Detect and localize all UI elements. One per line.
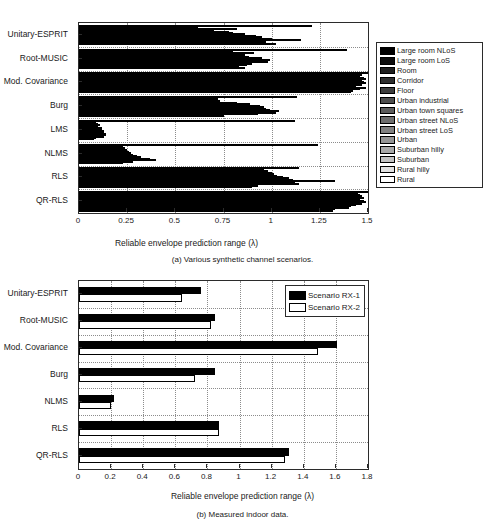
legend-a-item[interactable]: Corridor: [380, 76, 480, 86]
legend-a-label: Floor: [397, 86, 414, 95]
legend-a-label: Urban street LoS: [397, 126, 453, 135]
legend-a-item[interactable]: Urban street LoS: [380, 125, 480, 135]
legend-a-label: Suburban: [397, 155, 429, 164]
legend-a-item[interactable]: Urban: [380, 135, 480, 145]
legend-a-item[interactable]: Suburban: [380, 155, 480, 165]
gridline-horizontal: [79, 415, 368, 416]
gridline-horizontal: [79, 189, 368, 190]
bar: [79, 43, 276, 45]
x-axis-tick-label: 1.5: [361, 216, 372, 225]
x-axis-tick: [335, 464, 336, 468]
x-axis-tick-label: 1.8: [361, 472, 372, 481]
bar: [79, 186, 252, 188]
legend-a-item[interactable]: Large room LoS: [380, 56, 480, 66]
legend-swatch-icon: [380, 166, 395, 174]
x-axis-tick: [78, 208, 79, 212]
legend-a-item[interactable]: Floor: [380, 86, 480, 96]
y-axis-category-label: Root-MUSIC: [20, 53, 74, 63]
legend-swatch-icon: [380, 47, 395, 55]
bar: [79, 91, 351, 93]
x-axis-tick-label: 0.75: [215, 216, 231, 225]
bar: [79, 321, 211, 328]
legend-swatch-icon: [380, 146, 395, 154]
legend-a-item[interactable]: Urban town squares: [380, 105, 480, 115]
x-axis-tick-label: 1.2: [265, 472, 276, 481]
legend-swatch-icon: [380, 116, 395, 124]
legend-a[interactable]: Large room NLoSLarge room LoSRoomCorrido…: [376, 42, 483, 188]
legend-a-item[interactable]: Urban street NLoS: [380, 115, 480, 125]
gridline-horizontal: [79, 94, 368, 95]
legend-b-item[interactable]: Scenario RX-1: [289, 289, 361, 301]
legend-b[interactable]: Scenario RX-1Scenario RX-2: [285, 285, 365, 317]
bar: [79, 67, 245, 69]
y-axis-category-label: QR-RLS: [36, 195, 74, 205]
x-axis-tick: [174, 464, 175, 468]
legend-swatch-icon: [380, 156, 395, 164]
gridline-horizontal: [79, 71, 368, 72]
x-axis-tick-label: 0.4: [137, 472, 148, 481]
x-axis-tick-label: 1.4: [297, 472, 308, 481]
legend-b-label: Scenario RX-1: [308, 291, 360, 300]
legend-b-item[interactable]: Scenario RX-2: [289, 301, 361, 313]
legend-a-label: Large room NLoS: [397, 46, 455, 55]
bar: [79, 375, 195, 382]
legend-a-label: Large room LoS: [397, 56, 450, 65]
x-axis-tick-label: 0.8: [201, 472, 212, 481]
legend-b-label: Scenario RX-2: [308, 303, 360, 312]
bar: [79, 348, 318, 355]
legend-a-label: Urban town squares: [397, 106, 463, 115]
x-axis-tick-label: 1: [236, 472, 240, 481]
x-axis-tick-label: 0.2: [105, 472, 116, 481]
gridline-horizontal: [79, 388, 368, 389]
bar: [79, 162, 123, 164]
bar: [79, 402, 111, 409]
bar: [79, 395, 114, 402]
legend-a-label: Urban industrial: [397, 96, 449, 105]
y-axis-tick: [78, 58, 82, 59]
legend-a-item[interactable]: Rural hilly: [380, 165, 480, 175]
legend-a-item[interactable]: Suburban hilly: [380, 145, 480, 155]
y-axis-tick: [78, 320, 82, 321]
x-axis-tick: [142, 464, 143, 468]
x-axis-title-b: Reliable envelope prediction range (λ): [0, 491, 485, 501]
x-axis-tick: [367, 464, 368, 468]
bar: [79, 120, 295, 122]
y-axis-category-label: Mod. Covariance: [4, 342, 74, 352]
x-axis-tick-label: 1: [268, 216, 272, 225]
legend-a-item[interactable]: Room: [380, 66, 480, 76]
x-axis-title-a: Reliable envelope prediction range (λ): [0, 238, 485, 248]
legend-swatch-icon: [380, 97, 395, 105]
x-axis-tick: [110, 464, 111, 468]
x-axis-tick: [206, 464, 207, 468]
x-axis-tick: [271, 208, 272, 212]
y-axis-tick: [78, 153, 82, 154]
gridline-vertical: [368, 23, 369, 213]
y-axis-category-label: QR-RLS: [36, 450, 74, 460]
bar: [79, 314, 215, 321]
legend-a-item[interactable]: Large room NLoS: [380, 46, 480, 56]
gridline-horizontal: [79, 166, 368, 167]
bar: [79, 456, 285, 463]
legend-a-item[interactable]: Rural: [380, 175, 480, 185]
legend-a-item[interactable]: Urban industrial: [380, 95, 480, 105]
gridline-horizontal: [79, 47, 368, 48]
plot-area-a: [78, 22, 369, 214]
x-axis-tick: [223, 208, 224, 212]
bar: [79, 294, 182, 301]
y-axis-tick: [78, 347, 82, 348]
y-axis-tick: [78, 129, 82, 130]
caption-a: (a) Various synthetic channel scenarios.: [0, 255, 485, 264]
y-axis-category-label: Root-MUSIC: [20, 315, 74, 325]
legend-swatch-icon: [380, 77, 395, 85]
x-axis-tick-label: 0.25: [118, 216, 134, 225]
legend-swatch-icon: [380, 57, 395, 65]
caption-b: (b) Measured indoor data.: [0, 510, 485, 519]
y-axis-category-label: NLMS: [44, 148, 74, 158]
y-axis-tick: [78, 455, 82, 456]
gridline-horizontal: [79, 442, 368, 443]
y-axis-category-label: Burg: [50, 369, 74, 379]
bar: [79, 138, 94, 140]
y-axis-tick: [78, 176, 82, 177]
legend-swatch-icon: [380, 87, 395, 95]
bar: [79, 368, 215, 375]
